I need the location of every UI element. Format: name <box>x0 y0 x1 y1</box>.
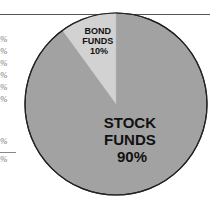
pie-chart: BOND FUNDS 10% STOCK FUNDS 90% <box>0 0 217 205</box>
